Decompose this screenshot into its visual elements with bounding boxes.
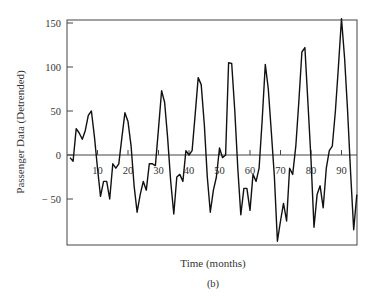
y-tick-label: 0 (56, 150, 61, 161)
data-series-line (70, 19, 357, 242)
x-tick-label: 90 (336, 165, 347, 176)
x-tick-label: 30 (153, 165, 164, 176)
x-tick-label: 20 (123, 165, 134, 176)
y-tick-label: 50 (51, 106, 62, 117)
y-axis-label: Passenger Data (Detrended) (14, 70, 27, 194)
y-tick-label: − 50 (42, 194, 61, 205)
x-axis-label: Time (months) (180, 257, 246, 270)
figure-caption: (b) (207, 278, 220, 290)
y-tick-label: 100 (45, 62, 61, 73)
y-axis-ticks: 150100500− 50 (42, 18, 73, 205)
passenger-chart: 150100500− 50 102030405060708090 Passeng… (0, 0, 377, 301)
y-tick-label: 150 (45, 18, 61, 29)
x-tick-label: 50 (214, 165, 225, 176)
x-tick-label: 40 (184, 165, 195, 176)
x-tick-label: 70 (275, 165, 286, 176)
